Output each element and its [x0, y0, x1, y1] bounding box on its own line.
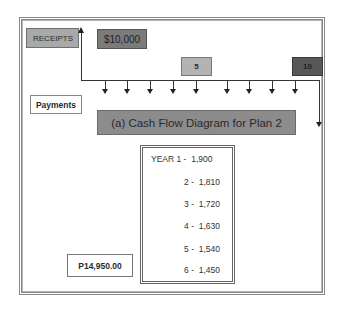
payment-arrow-icon	[102, 89, 108, 94]
payment-line	[272, 80, 273, 89]
schedule-row: 6 - 1,450	[184, 265, 220, 275]
payment-arrow-icon	[193, 89, 199, 94]
schedule-row: 3 - 1,720	[184, 199, 220, 209]
receipt-line	[81, 33, 82, 81]
receipt-arrow-icon	[78, 27, 84, 33]
schedule-row: 2 - 1,810	[184, 177, 220, 187]
payment-line	[150, 80, 151, 89]
schedule-row: 5 - 1,540	[184, 244, 220, 254]
year-10-marker: 10	[292, 57, 323, 76]
diagram-title: (a) Cash Flow Diagram for Plan 2	[97, 110, 296, 135]
payment-arrow-icon	[316, 122, 322, 127]
payment-arrow-icon	[170, 89, 176, 94]
payment-line	[173, 80, 174, 89]
payment-line	[105, 80, 106, 89]
receipts-label: RECEIPTS	[26, 28, 79, 48]
final-payment-line	[319, 80, 320, 123]
receipt-amount: $10,000	[97, 29, 147, 49]
year-5-marker: 5	[181, 57, 212, 76]
payment-arrow-icon	[124, 89, 130, 94]
payment-line	[295, 80, 296, 89]
timeline	[81, 80, 319, 81]
payment-arrow-icon	[147, 89, 153, 94]
payment-arrow-icon	[269, 89, 275, 94]
payment-line	[196, 80, 197, 89]
total-amount: P14,950.00	[67, 254, 133, 277]
schedule-row: YEAR 1 - 1,900	[151, 154, 212, 164]
payment-arrow-icon	[224, 89, 230, 94]
payment-line	[227, 80, 228, 89]
payment-arrow-icon	[246, 89, 252, 94]
schedule-row: 4 - 1,630	[184, 221, 220, 231]
payment-line	[249, 80, 250, 89]
payment-line	[127, 80, 128, 89]
payment-schedule: YEAR 1 - 1,900 2 - 1,810 3 - 1,720 4 - 1…	[140, 145, 235, 284]
payments-label: Payments	[30, 95, 82, 114]
payment-arrow-icon	[292, 89, 298, 94]
